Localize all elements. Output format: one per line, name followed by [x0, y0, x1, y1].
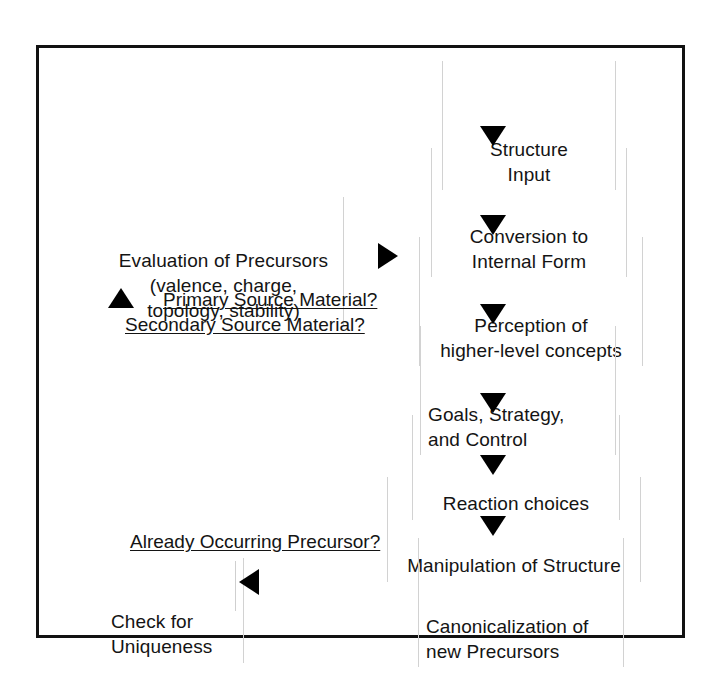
annotation-label: Check for Uniqueness	[111, 611, 212, 657]
figure-frame: Structure Input Conversion to Internal F…	[36, 45, 685, 638]
down-arrow-icon	[480, 516, 506, 536]
down-arrow-icon	[480, 455, 506, 475]
annotation-primary-source-material: Primary Source Material?	[163, 288, 377, 313]
down-arrow-icon	[480, 126, 506, 146]
up-arrow-icon	[108, 288, 134, 308]
node-edge-right	[623, 538, 624, 667]
annotation-secondary-source-material: Secondary Source Material?	[125, 313, 365, 338]
node-edge-left	[418, 538, 419, 667]
down-arrow-icon	[480, 393, 506, 413]
node-edge-right	[642, 237, 643, 366]
node-edge-left	[387, 477, 388, 582]
node-edge-right	[615, 326, 616, 455]
connector-rule	[235, 561, 236, 611]
annotation-check-for-uniqueness: Check for Uniqueness	[111, 561, 236, 660]
down-arrow-icon	[480, 304, 506, 324]
node-edge-right	[640, 477, 641, 582]
down-arrow-icon	[480, 215, 506, 235]
annotation-already-occurring-precursor: Already Occurring Precursor?	[130, 530, 380, 555]
flow-node-canonicalization: Canonicalization of new Precursors	[426, 541, 616, 664]
left-arrow-icon	[239, 569, 259, 595]
flow-node-label: Canonicalization of new Precursors	[426, 616, 588, 662]
right-arrow-icon	[378, 243, 398, 269]
